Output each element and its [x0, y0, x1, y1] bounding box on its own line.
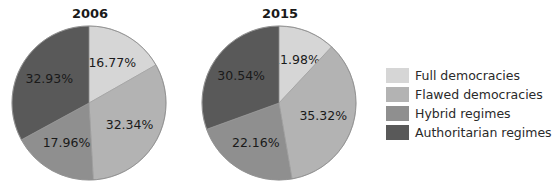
legend-swatch: [386, 68, 409, 83]
legend-swatch: [386, 87, 409, 102]
slice-value-label: 17.96%: [43, 135, 91, 150]
legend-item-full-democracies: Full democracies: [386, 66, 552, 85]
slice-value-label: 22.16%: [232, 135, 280, 150]
legend-label: Authoritarian regimes: [415, 125, 552, 140]
legend-item-authoritarian-regimes: Authoritarian regimes: [386, 123, 552, 142]
slice-value-label: 32.93%: [25, 71, 73, 86]
pie-2006: 16.77%32.34%17.96%32.93%: [12, 26, 166, 180]
legend-label: Hybrid regimes: [415, 106, 511, 121]
pie-2015: 11.98%35.32%22.16%30.54%: [202, 26, 356, 180]
legend-item-hybrid-regimes: Hybrid regimes: [386, 104, 552, 123]
legend-swatch: [386, 125, 409, 140]
legend-swatch: [386, 106, 409, 121]
slice-value-label: 32.34%: [106, 117, 154, 132]
legend-label: Full democracies: [415, 68, 520, 83]
slice-value-label: 16.77%: [88, 55, 136, 70]
legend-item-flawed-democracies: Flawed democracies: [386, 85, 552, 104]
slice-value-label: 11.98%: [272, 52, 320, 67]
legend-label: Flawed democracies: [415, 87, 543, 102]
slice-value-label: 30.54%: [217, 68, 265, 83]
legend: Full democracies Flawed democracies Hybr…: [386, 66, 552, 142]
slice-value-label: 35.32%: [299, 108, 347, 123]
